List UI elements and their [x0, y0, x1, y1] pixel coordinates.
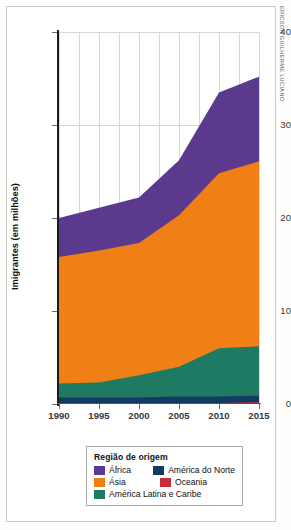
y-axis-line	[57, 30, 59, 406]
figure-container: ERICSON GUILHERME LUCIANO Imigrantes (em…	[0, 0, 291, 530]
legend-item-america-do-norte: América do Norte	[153, 465, 235, 475]
x-tick-label-2015: 2015	[239, 410, 279, 421]
legend-swatch-africa	[94, 466, 105, 475]
credit-text: ERICSON GUILHERME LUCIANO	[275, 6, 289, 126]
y-tick-label-30: 30	[265, 119, 291, 130]
x-tick-mark-2005	[179, 404, 180, 409]
x-tick-mark-2015	[259, 404, 260, 409]
plot-area	[59, 32, 260, 404]
legend-item-america-latina-caribe: América Latina e Caribe	[94, 489, 201, 499]
x-tick-label-2000: 2000	[119, 410, 159, 421]
x-tick-label-2010: 2010	[199, 410, 239, 421]
x-tick-mark-2000	[139, 404, 140, 409]
legend-swatch-america-latina-caribe	[94, 490, 105, 499]
legend-title: Região de origem	[94, 452, 235, 462]
legend-swatch-america-do-norte	[153, 466, 164, 475]
x-tick-mark-1990	[59, 404, 60, 409]
legend-item-asia: Ásia	[94, 477, 160, 487]
legend-row: Ásia Oceania	[94, 477, 235, 487]
legend-item-oceania: Oceania	[160, 477, 207, 487]
x-tick-label-1995: 1995	[79, 410, 119, 421]
y-tick-label-10: 10	[265, 305, 291, 316]
x-tick-mark-1995	[99, 404, 100, 409]
chart-legend: Região de origem África América do Norte…	[86, 446, 243, 506]
legend-swatch-asia	[94, 478, 105, 487]
x-tick-label-1990: 1990	[39, 410, 79, 421]
legend-row: África América do Norte	[94, 465, 235, 475]
x-axis-line	[57, 403, 261, 404]
x-tick-mark-2010	[219, 404, 220, 409]
y-tick-label-0: 0	[265, 398, 291, 409]
y-axis-title: Imigrantes (em milhões)	[10, 140, 26, 290]
legend-swatch-oceania	[160, 478, 171, 487]
legend-label-america-do-norte: América do Norte	[168, 465, 235, 475]
legend-label-america-latina-caribe: América Latina e Caribe	[109, 489, 201, 499]
legend-row: América Latina e Caribe	[94, 489, 235, 499]
y-tick-label-40: 40	[265, 26, 291, 37]
y-tick-label-20: 20	[265, 212, 291, 223]
legend-label-asia: Ásia	[109, 477, 126, 487]
legend-label-oceania: Oceania	[175, 477, 207, 487]
legend-label-africa: África	[109, 465, 131, 475]
stacked-area-chart	[59, 32, 260, 404]
legend-item-africa: África	[94, 465, 153, 475]
x-tick-label-2005: 2005	[159, 410, 199, 421]
